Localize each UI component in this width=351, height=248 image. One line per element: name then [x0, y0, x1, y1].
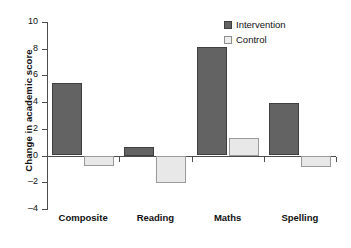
bar-composite-control — [84, 156, 114, 166]
bar-spelling-intervention — [269, 103, 299, 155]
legend-label-control: Control — [236, 34, 267, 45]
legend-label-intervention: Intervention — [236, 19, 286, 30]
y-tick-8 — [42, 49, 47, 50]
y-tick-4 — [42, 102, 47, 103]
bar-reading-intervention — [124, 147, 154, 156]
y-tick-label-10: 10 — [4, 17, 38, 26]
y-tick--4 — [42, 209, 47, 210]
y-tick-label-0: 0 — [4, 151, 38, 160]
x-tick-1 — [119, 157, 120, 162]
legend-item-intervention: Intervention — [224, 17, 286, 32]
legend-swatch-control-icon — [224, 36, 232, 44]
x-tick-0 — [47, 157, 48, 162]
y-tick-label-2: 2 — [4, 124, 38, 133]
category-label-spelling: Spelling — [250, 212, 350, 223]
x-tick-4 — [336, 157, 337, 162]
bar-maths-control — [229, 138, 259, 156]
chart-legend: Intervention Control — [224, 17, 286, 47]
y-tick-label-6: 6 — [4, 70, 38, 79]
y-tick-10 — [42, 22, 47, 23]
y-axis-line — [47, 22, 48, 210]
legend-item-control: Control — [224, 32, 286, 47]
x-tick-3 — [264, 157, 265, 162]
x-tick-2 — [192, 157, 193, 162]
y-tick-6 — [42, 75, 47, 76]
y-tick-2 — [42, 129, 47, 130]
bar-reading-control — [156, 156, 186, 183]
bar-maths-intervention — [197, 47, 227, 155]
y-tick--2 — [42, 182, 47, 183]
legend-swatch-intervention-icon — [224, 21, 232, 29]
y-tick-label-8: 8 — [4, 44, 38, 53]
bar-chart: Change in academic score 1086420–2–4 Com… — [0, 0, 351, 248]
y-tick-label-4: 4 — [4, 97, 38, 106]
bar-spelling-control — [301, 156, 331, 167]
y-tick-label--2: –2 — [4, 177, 38, 186]
bar-composite-intervention — [52, 83, 82, 155]
